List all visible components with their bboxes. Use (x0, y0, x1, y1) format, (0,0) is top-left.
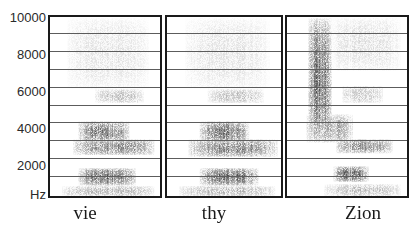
gridline-4000 (287, 122, 407, 123)
spectrogram-figure: 10000 8000 6000 4000 2000 Hz vie thy Zio… (0, 0, 418, 235)
gridline-1000 (50, 176, 160, 177)
y-tick-10000: 10000 (10, 11, 46, 24)
word-label-2: thy (202, 203, 226, 222)
spectrogram-panel-2 (165, 15, 283, 198)
gridline-3000 (50, 140, 160, 141)
spectrogram-canvas (287, 17, 407, 196)
word-label-1: vie (73, 203, 96, 222)
gridline-2000 (50, 158, 160, 159)
gridline-8000 (167, 51, 281, 52)
gridline-1000 (167, 176, 281, 177)
gridline-2000 (167, 158, 281, 159)
gridline-3000 (287, 140, 407, 141)
gridline-7000 (167, 69, 281, 70)
gridline-2000 (287, 158, 407, 159)
gridline-4000 (167, 122, 281, 123)
y-axis-unit-label: Hz (30, 188, 46, 201)
gridline-7000 (50, 69, 160, 70)
gridline-9000 (50, 33, 160, 34)
word-label-3: Zion (345, 203, 381, 222)
spectrogram-panel-3 (285, 15, 409, 198)
spectrogram-canvas (50, 17, 160, 196)
gridline-1000 (287, 176, 407, 177)
spectrogram-panel-1 (48, 15, 162, 198)
gridline-5000 (287, 105, 407, 106)
gridline-9000 (167, 33, 281, 34)
gridline-5000 (50, 105, 160, 106)
y-tick-2000: 2000 (17, 159, 46, 172)
gridline-5000 (167, 105, 281, 106)
gridline-7000 (287, 69, 407, 70)
gridline-8000 (50, 51, 160, 52)
y-tick-6000: 6000 (17, 85, 46, 98)
y-tick-8000: 8000 (17, 48, 46, 61)
gridline-3000 (167, 140, 281, 141)
gridline-6000 (50, 87, 160, 88)
gridline-6000 (167, 87, 281, 88)
gridline-9000 (287, 33, 407, 34)
y-tick-4000: 4000 (17, 122, 46, 135)
spectrogram-canvas (167, 17, 281, 196)
gridline-8000 (287, 51, 407, 52)
gridline-4000 (50, 122, 160, 123)
gridline-6000 (287, 87, 407, 88)
